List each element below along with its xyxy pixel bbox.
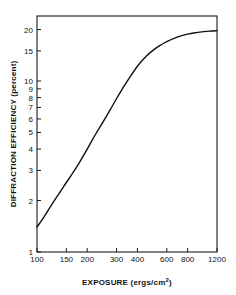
x-tick-label: 1200 xyxy=(208,255,226,264)
diffraction-efficiency-chart: 1001502003004006008001200 12345678910152… xyxy=(0,0,236,295)
x-tick-label: 200 xyxy=(81,255,95,264)
y-tick-label: 9 xyxy=(29,85,34,94)
x-axis-title: EXPOSURE (ergs/cm2) xyxy=(82,277,172,287)
y-tick-label: 10 xyxy=(24,77,33,86)
chart-background xyxy=(0,0,236,295)
y-axis-title: DIFFRACTION EFFICIENCY (percent) xyxy=(9,61,18,208)
chart-page: 1001502003004006008001200 12345678910152… xyxy=(0,0,236,295)
x-tick-label: 300 xyxy=(110,255,124,264)
x-tick-label: 400 xyxy=(131,255,145,264)
y-tick-label: 3 xyxy=(29,166,34,175)
y-tick-label: 15 xyxy=(24,47,33,56)
y-tick-label: 6 xyxy=(29,115,34,124)
y-tick-label: 1 xyxy=(29,248,34,257)
y-tick-label: 20 xyxy=(24,26,33,35)
x-tick-label: 800 xyxy=(181,255,195,264)
x-tick-label: 150 xyxy=(60,255,74,264)
y-tick-label: 8 xyxy=(29,94,34,103)
y-tick-label: 4 xyxy=(29,145,34,154)
y-tick-label: 2 xyxy=(29,197,34,206)
y-tick-label: 5 xyxy=(29,128,34,137)
y-tick-label: 7 xyxy=(29,103,34,112)
x-tick-label: 600 xyxy=(160,255,174,264)
